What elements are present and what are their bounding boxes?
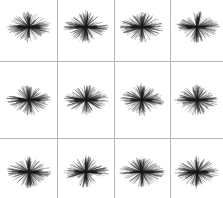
starburst-panel-12 [0, 0, 223, 198]
figure-root [0, 0, 223, 198]
